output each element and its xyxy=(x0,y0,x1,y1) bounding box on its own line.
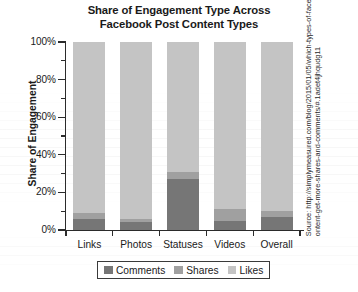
y-axis-tick-label: 40% xyxy=(0,150,56,160)
x-axis-line xyxy=(60,230,304,231)
legend-item-comments: Comments xyxy=(104,265,165,276)
bar-segment-shares xyxy=(214,209,246,220)
y-axis-tick-major xyxy=(58,79,66,80)
legend-label-comments: Comments xyxy=(116,265,165,276)
bar-links xyxy=(73,42,105,230)
bar-segment-comments xyxy=(261,217,293,230)
x-axis-tick xyxy=(253,231,254,236)
chart-title-line-2: Facebook Post Content Types xyxy=(48,18,310,32)
y-axis-tick-label: 60% xyxy=(0,112,56,122)
bar-segment-likes xyxy=(73,42,105,213)
plot-area xyxy=(66,42,300,230)
x-axis-tick xyxy=(159,231,160,236)
legend-label-shares: Shares xyxy=(186,265,218,276)
legend-label-likes: Likes xyxy=(240,265,264,276)
source-citation: Source: http://simplymeasured.com/blog/2… xyxy=(304,0,322,236)
y-axis-tick-label: 20% xyxy=(0,187,56,197)
chart-title-line-1: Share of Engagement Type Across xyxy=(48,4,310,18)
y-axis-tick-label: 0% xyxy=(0,225,56,235)
y-axis-tick-major xyxy=(58,154,66,155)
x-axis-tick xyxy=(112,231,113,236)
y-axis-tick-major xyxy=(58,192,66,193)
stacked-bar-chart-figure: Share of Engagement Type Across Facebook… xyxy=(0,0,358,292)
x-axis-tick xyxy=(206,231,207,236)
y-axis-tick-major xyxy=(58,117,66,118)
bar-segment-shares xyxy=(167,172,199,180)
bar-segment-comments xyxy=(214,221,246,230)
legend-swatch-comments xyxy=(104,266,113,275)
bar-segment-likes xyxy=(167,42,199,172)
bar-segment-comments xyxy=(120,222,152,230)
bar-photos xyxy=(120,42,152,230)
bar-segment-likes xyxy=(261,42,293,211)
bar-segment-comments xyxy=(167,179,199,230)
y-axis-tick-major xyxy=(58,41,66,42)
bar-segment-likes xyxy=(214,42,246,209)
bar-videos xyxy=(214,42,246,230)
legend-item-likes: Likes xyxy=(228,265,264,276)
y-axis-tick-label: 100% xyxy=(0,37,56,47)
chart-title: Share of Engagement Type Across Facebook… xyxy=(48,4,310,31)
legend-swatch-likes xyxy=(228,266,237,275)
bar-segment-comments xyxy=(73,219,105,230)
x-axis-tick xyxy=(65,231,66,236)
legend-item-shares: Shares xyxy=(174,265,218,276)
legend-swatch-shares xyxy=(174,266,183,275)
bar-overall xyxy=(261,42,293,230)
x-axis-label-overall: Overall xyxy=(247,239,307,250)
bar-segment-likes xyxy=(120,42,152,219)
chart-legend: CommentsSharesLikes xyxy=(97,261,270,279)
bar-statuses xyxy=(167,42,199,230)
x-axis-tick xyxy=(299,231,300,236)
y-axis-tick-label: 80% xyxy=(0,75,56,85)
